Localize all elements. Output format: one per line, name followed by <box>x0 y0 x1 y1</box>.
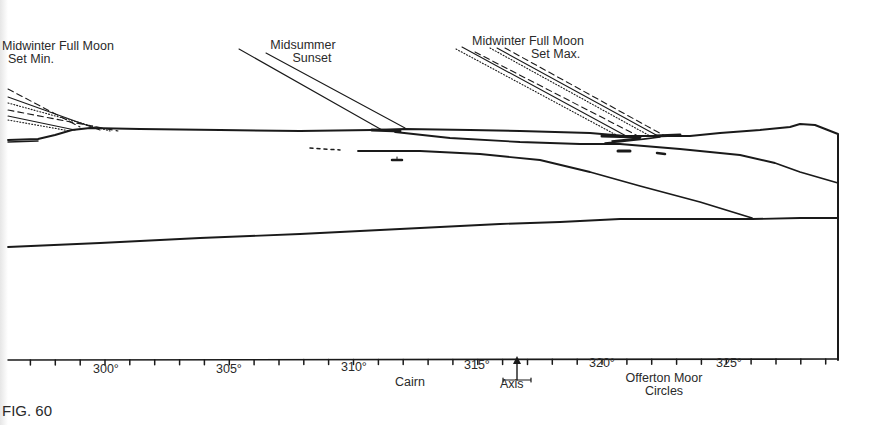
moon-min-label-line2: Set Min. <box>8 53 54 66</box>
horizon-profile-diagram <box>0 0 879 425</box>
near-ridge-line <box>358 151 752 218</box>
axis-marker-label: Axis <box>500 378 524 391</box>
horizon-thick-sunset <box>372 130 400 131</box>
tick-label-300: 300° <box>93 363 119 376</box>
azimuth-axis-line <box>8 359 838 360</box>
figure-caption: FIG. 60 <box>2 404 52 417</box>
second-ridge-line <box>395 132 838 183</box>
page-edge-shadow <box>0 0 8 425</box>
cairn-label: Cairn <box>395 376 425 389</box>
site-label-line2: Circles <box>614 385 714 398</box>
sunset-label-line2: Sunset <box>272 52 352 65</box>
tick-label-320: 320° <box>589 357 615 370</box>
tick-label-325: 325° <box>716 357 742 370</box>
near-ridge-dashed <box>310 148 340 150</box>
foreground-line <box>8 218 838 247</box>
tick-label-305: 305° <box>216 363 242 376</box>
tick-label-310: 310° <box>341 361 367 374</box>
moon-max-label-line2: Set Max. <box>531 48 580 61</box>
far-horizon-shadow <box>8 141 38 142</box>
moon-min-sightline <box>8 89 118 131</box>
tick-label-315: 315° <box>464 359 490 372</box>
feature-marker-2 <box>657 153 665 154</box>
